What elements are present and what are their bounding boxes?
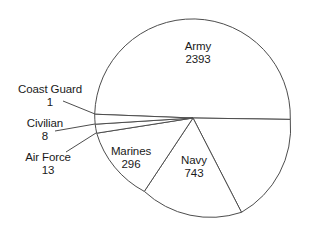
pie-label-marines-name: Marines bbox=[100, 145, 162, 158]
pie-label-navy: Navy 743 bbox=[170, 154, 218, 179]
pie-label-navy-name: Navy bbox=[170, 154, 218, 167]
pie-label-coast-guard-name: Coast Guard bbox=[8, 83, 92, 96]
pie-label-coast-guard-value: 1 bbox=[8, 96, 92, 109]
pie-chart: Army 2393 Navy 743 Marines 296 Coast Gua… bbox=[0, 0, 309, 231]
pie-label-marines-value: 296 bbox=[100, 158, 162, 171]
pie-label-civilian-name: Civilian bbox=[8, 117, 82, 130]
pie-label-coast-guard: Coast Guard 1 bbox=[8, 83, 92, 108]
pie-label-air-force-value: 13 bbox=[8, 164, 88, 177]
pie-label-air-force: Air Force 13 bbox=[8, 151, 88, 176]
pie-label-army-value: 2393 bbox=[168, 53, 228, 66]
pie-label-civilian-value: 8 bbox=[8, 130, 82, 143]
pie-label-army: Army 2393 bbox=[168, 40, 228, 65]
pie-label-navy-value: 743 bbox=[170, 167, 218, 180]
pie-slice-army[interactable] bbox=[95, 19, 291, 119]
pie-label-marines: Marines 296 bbox=[100, 145, 162, 170]
pie-chart-canvas bbox=[0, 0, 309, 231]
pie-label-army-name: Army bbox=[168, 40, 228, 53]
pie-label-civilian: Civilian 8 bbox=[8, 117, 82, 142]
pie-label-air-force-name: Air Force bbox=[8, 151, 88, 164]
